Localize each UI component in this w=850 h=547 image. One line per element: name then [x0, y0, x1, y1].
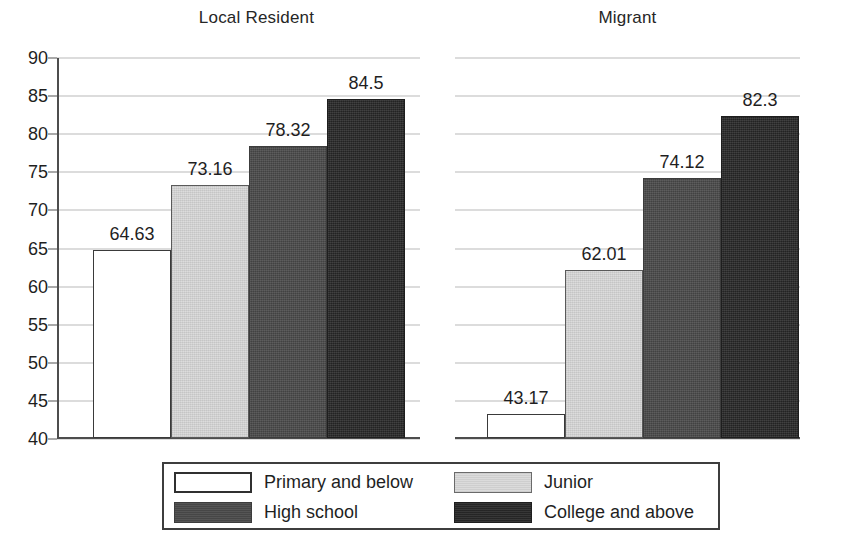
legend-item-junior: Junior — [454, 472, 593, 493]
y-tick-label: 65 — [4, 240, 48, 258]
legend-item-high-school: High school — [174, 502, 358, 523]
y-tick-mark — [48, 96, 57, 97]
y-tick-label: 85 — [4, 87, 48, 105]
y-tick-label: 55 — [4, 316, 48, 334]
y-axis: 9085807570656055504540 — [0, 0, 48, 460]
plot-panel-local-resident — [57, 58, 420, 439]
bar — [171, 185, 249, 438]
bar-value-label: 84.5 — [309, 74, 423, 92]
y-tick-label: 40 — [4, 430, 48, 448]
bar-value-label: 74.12 — [625, 153, 739, 171]
panel-title-local-resident: Local Resident — [93, 8, 420, 28]
legend-label: Primary and below — [264, 473, 413, 491]
bar — [643, 178, 721, 438]
bar-chart-figure: Local Resident Migrant 90858075706560555… — [0, 0, 850, 547]
bar-value-label: 64.63 — [75, 225, 189, 243]
legend-swatch-icon — [174, 472, 252, 493]
legend-row: Primary and below Junior — [164, 467, 718, 497]
y-tick-mark — [48, 134, 57, 135]
legend-row: High school College and above — [164, 497, 718, 527]
bar — [93, 250, 171, 438]
y-tick-mark — [48, 362, 57, 363]
legend-item-primary-and-below: Primary and below — [174, 472, 413, 493]
bar — [327, 99, 405, 438]
y-tick-mark — [48, 172, 57, 173]
y-tick-mark — [48, 248, 57, 249]
bar-value-label: 62.01 — [547, 245, 661, 263]
legend-swatch-icon — [454, 502, 532, 523]
y-tick-label: 60 — [4, 278, 48, 296]
legend-swatch-icon — [174, 502, 252, 523]
legend-item-college-and-above: College and above — [454, 502, 694, 523]
y-tick-mark — [48, 210, 57, 211]
y-tick-mark — [48, 439, 57, 440]
y-tick-mark — [48, 324, 57, 325]
legend-swatch-icon — [454, 472, 532, 493]
bar-value-label: 82.3 — [703, 91, 817, 109]
y-tick-mark — [48, 286, 57, 287]
legend-label: High school — [264, 503, 358, 521]
legend-label: College and above — [544, 503, 694, 521]
bar — [565, 270, 643, 438]
panel-title-migrant: Migrant — [455, 8, 800, 28]
bar-value-label: 78.32 — [231, 121, 345, 139]
legend: Primary and below Junior High school Col… — [162, 462, 720, 530]
bar — [249, 146, 327, 438]
y-tick-mark — [48, 400, 57, 401]
bar-value-label: 43.17 — [469, 389, 583, 407]
legend-label: Junior — [544, 473, 593, 491]
y-tick-label: 50 — [4, 354, 48, 372]
bar-value-label: 73.16 — [153, 160, 267, 178]
y-tick-label: 45 — [4, 392, 48, 410]
bar — [487, 414, 565, 438]
y-tick-label: 90 — [4, 49, 48, 67]
y-tick-label: 80 — [4, 125, 48, 143]
y-tick-label: 70 — [4, 201, 48, 219]
y-tick-label: 75 — [4, 163, 48, 181]
y-tick-mark — [48, 58, 57, 59]
